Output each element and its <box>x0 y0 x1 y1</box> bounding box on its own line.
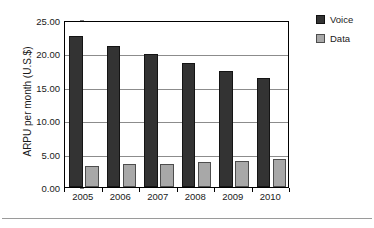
bar-data-2005 <box>85 166 99 187</box>
x-tick-label: 2007 <box>147 191 168 202</box>
bar-series-container <box>65 22 288 187</box>
chart-legend: VoiceData <box>316 13 374 51</box>
bar-group <box>144 22 174 187</box>
bar-group <box>257 22 287 187</box>
x-tick-mark <box>252 188 253 192</box>
y-tick-label: 0.00 <box>22 183 60 194</box>
x-tick-mark <box>64 188 65 192</box>
bar-group <box>107 22 137 187</box>
y-tick-label: 20.00 <box>22 49 60 60</box>
bar-voice-2006 <box>107 46 121 187</box>
x-axis-tick-labels: 200520062007200820092010 <box>64 191 289 207</box>
x-tick-mark <box>289 188 290 192</box>
legend-item-data[interactable]: Data <box>316 32 374 44</box>
plot-area <box>64 21 289 188</box>
y-tick-label: 15.00 <box>22 82 60 93</box>
bar-data-2008 <box>198 162 212 187</box>
x-tick-label: 2008 <box>185 191 206 202</box>
x-tick-mark <box>102 188 103 192</box>
bar-data-2010 <box>273 159 287 187</box>
bar-voice-2007 <box>144 54 158 187</box>
x-tick-label: 2005 <box>72 191 93 202</box>
bar-voice-2008 <box>182 63 196 187</box>
x-tick-label: 2006 <box>110 191 131 202</box>
legend-label: Voice <box>330 14 353 25</box>
x-tick-mark <box>214 188 215 192</box>
x-tick-label: 2009 <box>222 191 243 202</box>
x-tick-label: 2010 <box>260 191 281 202</box>
y-tick-label: 10.00 <box>22 116 60 127</box>
bar-group <box>182 22 212 187</box>
legend-label: Data <box>330 33 350 44</box>
bar-group <box>219 22 249 187</box>
legend-swatch-data-icon <box>316 34 325 43</box>
x-tick-mark <box>177 188 178 192</box>
y-tick-label: 5.00 <box>22 149 60 160</box>
bar-voice-2005 <box>69 36 83 187</box>
x-tick-mark <box>139 188 140 192</box>
bar-data-2006 <box>123 164 137 187</box>
y-tick-label: 25.00 <box>22 16 60 27</box>
bar-voice-2010 <box>257 78 271 187</box>
footer-divider <box>2 218 372 219</box>
legend-item-voice[interactable]: Voice <box>316 13 374 25</box>
bar-group <box>69 22 99 187</box>
y-axis-tick-labels: 0.005.0010.0015.0020.0025.00 <box>20 0 60 228</box>
legend-swatch-voice-icon <box>316 15 325 24</box>
bar-data-2007 <box>160 164 174 187</box>
bar-voice-2009 <box>219 71 233 187</box>
chart-figure: ARPU per month (U.S.$) 0.005.0010.0015.0… <box>0 0 374 228</box>
bar-data-2009 <box>235 161 249 187</box>
